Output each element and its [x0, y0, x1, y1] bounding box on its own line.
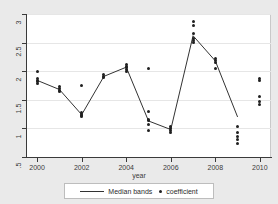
y-axis-line: [26, 14, 27, 158]
plot-area: [26, 14, 271, 157]
median-bands-line: [26, 14, 271, 157]
x-axis-tick-label: 2002: [65, 164, 99, 171]
y-axis-tick: [22, 157, 26, 158]
x-axis-tick: [260, 158, 261, 162]
x-axis-tick: [215, 158, 216, 162]
y-axis-tick: [22, 43, 26, 44]
x-axis-tick-label: 2008: [198, 164, 232, 171]
data-point: [147, 129, 150, 132]
data-point: [192, 24, 195, 27]
data-point: [214, 61, 217, 64]
y-axis-tick-label: 1.5: [15, 99, 22, 117]
x-axis-tick-label: 2004: [109, 164, 143, 171]
legend-line-swatch: [80, 191, 104, 192]
x-axis-tick: [37, 158, 38, 162]
data-point: [36, 82, 39, 85]
data-point: [214, 67, 217, 70]
legend-item-median-bands: Median bands: [80, 188, 152, 195]
chart-root: .511.522.53 200020022004200620082010 yea…: [0, 0, 278, 204]
x-axis-tick-label: 2006: [154, 164, 188, 171]
y-axis-tick: [22, 14, 26, 15]
data-point: [236, 131, 239, 134]
x-axis-line: [26, 157, 272, 158]
y-axis-tick-label: 2.5: [15, 42, 22, 60]
x-axis-tick-label: 2010: [243, 164, 277, 171]
x-axis-tick-label: 2000: [20, 164, 54, 171]
x-axis-title: year: [0, 172, 278, 179]
legend-label-coefficient: coefficient: [166, 188, 197, 195]
y-axis-tick: [22, 71, 26, 72]
x-axis-tick: [82, 158, 83, 162]
y-axis-tick-label: 3: [15, 14, 22, 32]
data-point: [36, 70, 39, 73]
data-point: [192, 20, 195, 23]
y-axis-tick-label: 2: [15, 71, 22, 89]
data-point: [192, 32, 195, 35]
legend-item-coefficient: coefficient: [159, 188, 197, 195]
legend-label-median-bands: Median bands: [108, 188, 152, 195]
data-point: [192, 41, 195, 44]
x-axis-tick: [126, 158, 127, 162]
chart-legend: Median bands coefficient: [64, 183, 214, 199]
legend-dot-swatch: [159, 190, 162, 193]
x-axis-tick: [171, 158, 172, 162]
data-point: [147, 67, 150, 70]
y-axis-tick: [22, 100, 26, 101]
data-point: [125, 70, 128, 73]
y-axis-tick-label: 1: [15, 128, 22, 146]
y-axis-tick: [22, 128, 26, 129]
